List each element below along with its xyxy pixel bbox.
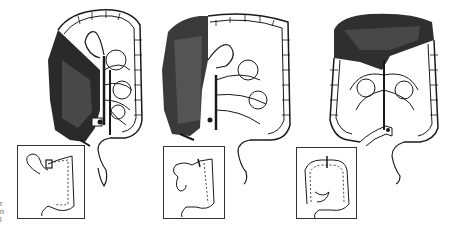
- inset-ileo-descending-anastomosis: [163, 146, 225, 219]
- reconstructed-colon-icon: [18, 146, 86, 220]
- panel-right-hemicolectomy: [0, 0, 150, 232]
- reconstructed-colon-icon: [297, 148, 358, 220]
- reconstructed-colon-icon: [164, 147, 226, 220]
- panel-transverse-colectomy: [300, 0, 452, 232]
- inset-colo-colic-anastomosis: [296, 147, 357, 219]
- panel-extended-right-hemicolectomy: [150, 0, 300, 232]
- inset-ileo-transverse-anastomosis: [17, 145, 85, 219]
